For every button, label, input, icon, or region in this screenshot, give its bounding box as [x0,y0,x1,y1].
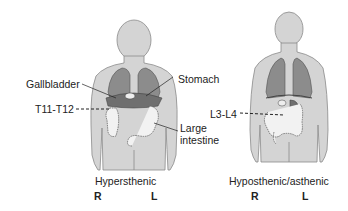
label-left-1: L [151,190,157,202]
label-stomach: Stomach [178,73,219,85]
hypersthenic-figure [76,20,178,170]
label-left-2: L [302,190,308,202]
label-large-intestine-line1: Large [180,122,207,134]
hyposthenic-figure [240,12,328,162]
label-right-1: R [94,190,102,202]
label-gallbladder: Gallbladder [26,78,80,90]
label-large-intestine-line2: intestine [180,134,219,146]
label-right-2: R [251,190,259,202]
caption-hypersthenic: Hypersthenic [95,175,156,187]
label-level-t11-t12: T11-T12 [35,103,74,115]
label-level-l3-l4: L3-L4 [210,108,237,120]
caption-hyposthenic: Hyposthenic/asthenic [229,175,329,187]
